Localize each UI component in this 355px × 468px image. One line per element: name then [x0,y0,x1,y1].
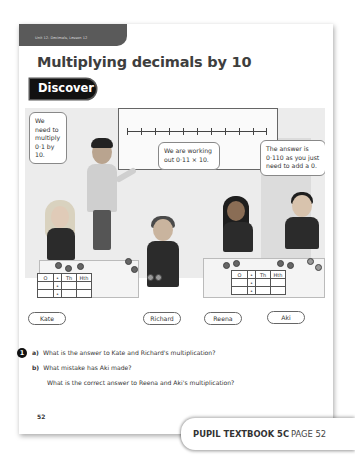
name-label-kate: Kate [28,312,66,325]
tick [141,128,142,135]
header-tenths: Th [256,271,271,279]
table-cell [256,279,271,287]
place-value-table-reena-aki: O • Th Hth • • [231,270,286,295]
aki-jumper [285,217,319,249]
place-value-counter [287,262,294,269]
name-label-reena: Reena [204,312,242,325]
table-cell [232,279,248,287]
kate-jumper [47,228,75,260]
teacher-trousers [93,210,111,250]
unit-strip: Unit 12: Decimals, Lesson 12 [19,24,127,46]
place-value-counter [125,258,132,265]
place-value-counter [77,263,84,270]
question-number-badge: 1 [17,348,27,358]
question-letter: a) [32,349,39,356]
place-value-counter [223,262,230,269]
reena-jumper [223,222,253,252]
tick [211,128,212,135]
decimal-point-cell: • [54,290,62,298]
table-cell [38,290,54,298]
decimal-point-cell: • [248,287,256,295]
question-text: What is the answer to Kate and Richard's… [43,349,216,356]
aki-head [292,195,312,217]
place-value-counter [55,262,62,269]
table-cell [77,282,92,290]
speech-text: We need to multiply 0·1 by 10. [35,117,60,158]
page-number: 52 [37,413,45,420]
table-row: • [232,287,286,295]
table-cell [256,287,271,295]
table-row: • [38,282,92,290]
place-value-table-kate-richard: O • Th Hth • • [37,273,92,298]
number-line [127,131,267,132]
header-ones: O [232,271,248,279]
kate-head [51,206,69,228]
table-cell [232,287,248,295]
question-a: a)What is the answer to Kate and Richard… [32,349,215,356]
table-cell [62,290,77,298]
speech-bubble-reena: We are working out 0·11 × 10. [158,142,220,170]
table-row: • [232,279,286,287]
table-cell [77,290,92,298]
richard-head [153,219,173,241]
decimal-point-cell: • [54,282,62,290]
place-value-counter [307,258,314,265]
place-value-counter [155,274,162,281]
tick [225,128,226,135]
unit-label: Unit 12: Decimals, Lesson 12 [35,36,87,40]
discover-label: Discover [38,81,94,95]
footer-tab: PUPIL TEXTBOOK 5C PAGE 52 [181,418,355,450]
name-label-richard: Richard [143,312,181,325]
question-b-part-2: What is the correct answer to Reena and … [47,379,234,386]
tick [127,128,128,135]
tick [183,128,184,135]
place-value-counter [147,274,154,281]
tick [253,128,254,135]
header-decimal-point: • [248,271,256,279]
header-hundredths: Hth [77,274,92,282]
place-value-counter [131,266,138,273]
footer-book-title: PUPIL TEXTBOOK 5C [193,429,289,439]
name-label-aki: Aki [267,311,305,324]
speech-bubble-teacher: We need to multiply 0·1 by 10. [29,112,67,164]
place-value-counter [277,260,284,267]
table-cell [271,279,286,287]
tick [155,128,156,135]
decimal-point-cell: • [248,279,256,287]
question-text: What mistake has Aki made? [43,364,131,371]
header-ones: O [38,274,54,282]
table-cell [62,282,77,290]
table-row: • [38,290,92,298]
textbook-page: Unit 12: Decimals, Lesson 12 Multiplying… [19,24,333,434]
header-tenths: Th [62,274,77,282]
header-hundredths: Hth [271,271,286,279]
question-b: b)What mistake has Aki made? [32,364,132,371]
table-header-row: O • Th Hth [38,274,92,282]
footer-page-label: PAGE 52 [291,429,326,439]
discover-badge: Discover [30,79,96,99]
tick [266,128,267,135]
table-header-row: O • Th Hth [232,271,286,279]
tick [169,128,170,135]
teacher-shirt [87,164,117,212]
speech-bubble-aki: The answer is 0·110 as you just need to … [260,140,325,176]
page-title: Multiplying decimals by 10 [37,54,251,70]
question-letter: b) [32,364,39,371]
reena-head [227,201,245,221]
table-cell [38,282,54,290]
question-text: What is the correct answer to Reena and … [47,379,234,386]
table-cell [271,287,286,295]
speech-text: We are working out 0·11 × 10. [164,147,212,163]
header-decimal-point: • [54,274,62,282]
place-value-counter [65,265,72,272]
speech-text: The answer is 0·110 as you just need to … [266,145,319,169]
teacher-hair [91,138,113,148]
tick [239,128,240,135]
place-value-counter [233,260,240,267]
tick [197,128,198,135]
place-value-counter [315,264,322,271]
